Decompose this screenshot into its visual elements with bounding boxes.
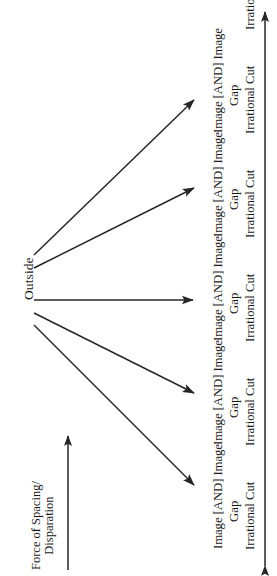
branch-1-gap-label: Gap xyxy=(228,85,241,106)
force-axis-label: Force of Spacing/ Disparation xyxy=(30,481,56,570)
force-axis-label-line2: Disparation xyxy=(43,481,56,570)
branch-arrow-1 xyxy=(34,100,194,255)
branch-2-gap-label: Gap xyxy=(228,189,241,210)
diagram-canvas: Outside Force of Spacing/ Disparation Im… xyxy=(0,0,277,576)
branch-arrow-4 xyxy=(34,313,194,393)
branch-1-main-label: Image [AND] Image xyxy=(212,28,225,133)
branch-5-cut-label: Irrational Cut xyxy=(244,482,257,550)
branch-3-cut-label: Irrational Cut xyxy=(244,274,257,342)
branch-4-cut-label: Irrational Cut xyxy=(244,378,257,446)
source-node-label: Outside xyxy=(22,257,36,300)
branch-5-main-label: Image [AND] Image xyxy=(212,444,225,549)
branch-2-cut-label: Irrational Cut xyxy=(244,170,257,238)
branch-4-main-label: Image [AND] Image xyxy=(212,340,225,445)
branch-3-main-label: Image [AND] Image xyxy=(212,236,225,341)
branch-1-cut-label: Irrational Cut xyxy=(244,66,257,134)
branch-3-gap-label: Gap xyxy=(228,293,241,314)
branch-arrow-5 xyxy=(34,325,194,485)
branch-4-gap-label: Gap xyxy=(228,397,241,418)
branch-arrow-2 xyxy=(34,188,194,268)
branch-arrows xyxy=(34,100,194,485)
branch-5-gap-label: Gap xyxy=(228,501,241,522)
extra-cut-label: Irrational Cut xyxy=(244,0,257,30)
branch-2-main-label: Image [AND] Image xyxy=(212,132,225,237)
